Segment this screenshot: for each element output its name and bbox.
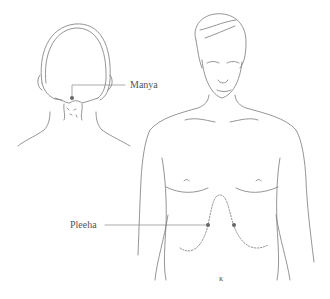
pleeha-point-marker (206, 223, 210, 227)
rib-margin-dotted-line (180, 195, 268, 251)
manya-point-marker (70, 96, 74, 100)
anatomy-illustration (0, 0, 330, 299)
manya-label: Manya (130, 79, 158, 90)
acupoint-diagram: Manya Pleeha ĸ (0, 0, 330, 299)
front-figure (138, 14, 314, 280)
pleeha-label: Pleeha (70, 219, 97, 230)
manya-leader-line (72, 85, 125, 98)
pleeha-point-marker-right (232, 223, 236, 227)
navel-mark: ĸ (219, 274, 223, 283)
